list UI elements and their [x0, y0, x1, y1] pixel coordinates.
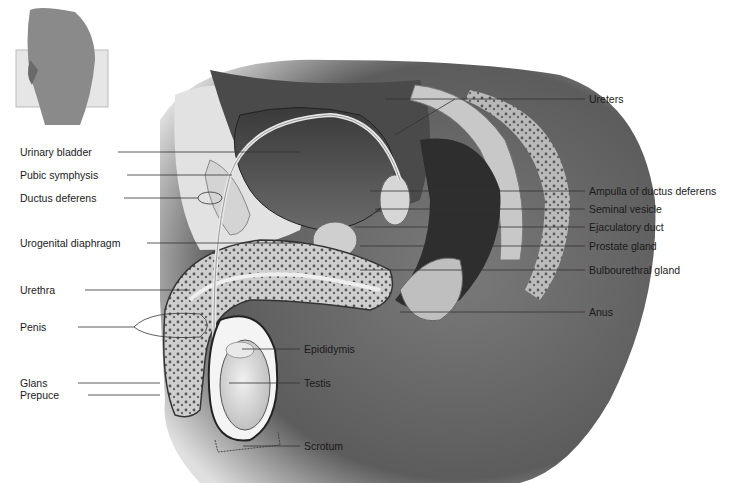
label-urogenital-diaphragm: Urogenital diaphragm — [20, 237, 120, 249]
label-scrotum: Scrotum — [304, 440, 343, 452]
label-bulbourethral-gland: Bulbourethral gland — [589, 264, 680, 276]
label-ureters: Ureters — [589, 93, 623, 105]
label-ejaculatory-duct: Ejaculatory duct — [589, 221, 664, 233]
label-anus: Anus — [589, 306, 613, 318]
label-testis: Testis — [304, 377, 331, 389]
inset-thumbnail — [16, 8, 108, 125]
label-glans: Glans — [20, 377, 47, 389]
label-ductus-deferens: Ductus deferens — [20, 192, 96, 204]
label-urinary-bladder: Urinary bladder — [20, 146, 92, 158]
label-prepuce: Prepuce — [20, 389, 59, 401]
label-seminal-vesicle: Seminal vesicle — [589, 203, 662, 215]
label-penis: Penis — [20, 321, 46, 333]
label-urethra: Urethra — [20, 284, 55, 296]
anatomy-diagram: Urinary bladder Pubic symphysis Ductus d… — [0, 0, 732, 483]
label-ampulla-of-ductus-deferens: Ampulla of ductus deferens — [589, 185, 716, 197]
label-prostate-gland: Prostate gland — [589, 240, 657, 252]
label-epididymis: Epididymis — [304, 343, 355, 355]
label-pubic-symphysis: Pubic symphysis — [20, 169, 98, 181]
